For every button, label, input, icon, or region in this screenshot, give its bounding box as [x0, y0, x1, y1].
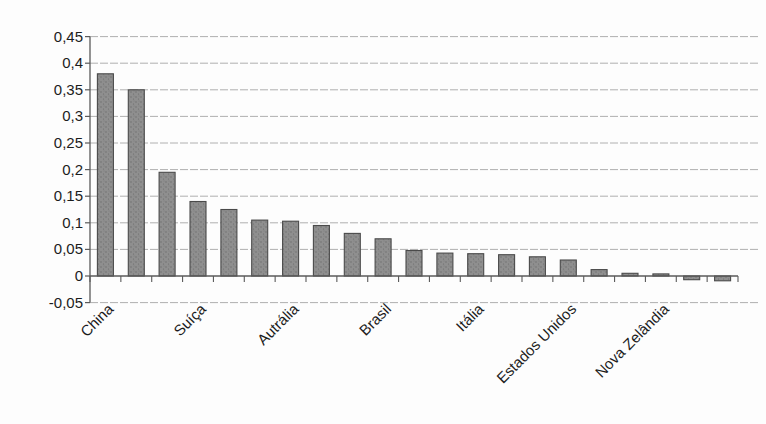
y-axis-tick-label: 0,4 — [62, 54, 83, 71]
bar-12 — [437, 253, 453, 276]
y-axis-tick-label: 0,15 — [54, 187, 83, 204]
bar-16 — [560, 260, 576, 276]
bar-15 — [529, 257, 545, 276]
y-axis-tick-label: 0,45 — [54, 28, 83, 45]
bar-9 — [344, 233, 360, 276]
bar-6 — [252, 220, 268, 276]
bar-3 — [159, 172, 175, 276]
bar-chart-figure: 0,450,40,350,30,250,20,150,10,050-0,05Ch… — [0, 0, 766, 424]
y-axis-tick-label: 0,1 — [62, 214, 83, 231]
bar-17 — [591, 270, 607, 276]
y-axis-tick-label: 0,05 — [54, 240, 83, 257]
bar-1 — [97, 74, 113, 276]
bar-4 — [190, 202, 206, 277]
bar-10 — [375, 239, 391, 276]
y-axis-tick-label: 0,3 — [62, 107, 83, 124]
bar-8 — [313, 226, 329, 277]
bar-11 — [406, 251, 422, 277]
bar-13 — [468, 254, 484, 276]
bar-14 — [499, 255, 515, 276]
y-axis-tick-label: 0,35 — [54, 81, 83, 98]
y-axis-tick-label: -0,05 — [49, 294, 83, 311]
bar-2 — [128, 90, 144, 276]
bar-chart-canvas: 0,450,40,350,30,250,20,150,10,050-0,05Ch… — [0, 0, 766, 424]
bar-7 — [283, 221, 299, 276]
y-axis-tick-label: 0,25 — [54, 134, 83, 151]
bar-5 — [221, 210, 237, 277]
y-axis-tick-label: 0 — [75, 267, 83, 284]
bar-21 — [715, 276, 731, 281]
y-axis-tick-label: 0,2 — [62, 161, 83, 178]
